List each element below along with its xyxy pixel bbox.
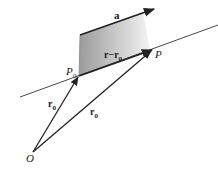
shaded-parallelogram [79,12,150,76]
diagram-canvas: a r−r0 P0 P O r0 r0 [0,0,218,177]
label-r0-right: r0 [90,106,98,120]
label-r0-left: r0 [48,98,56,112]
label-p0: P0 [65,65,77,80]
vector-r0-left [33,77,78,152]
label-a: a [114,9,120,21]
label-p: P [154,48,162,60]
label-origin: O [26,152,34,164]
